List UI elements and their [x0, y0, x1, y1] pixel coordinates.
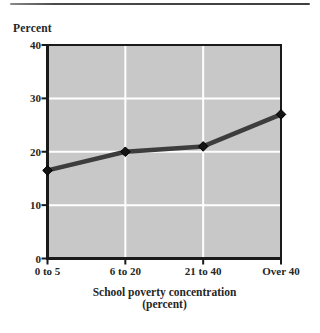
y-axis-tick-label: 20 — [8, 146, 41, 158]
chart-figure: Percent 010203040 0 to 56 to 2021 to 40O… — [0, 0, 320, 333]
line-chart-plot — [0, 0, 320, 333]
x-axis-category-label: Over 40 — [241, 265, 320, 277]
y-axis-tick-label: 0 — [8, 253, 41, 265]
y-axis-tick-label: 40 — [8, 39, 41, 51]
x-axis-title-line2: (percent) — [44, 299, 285, 311]
x-axis-category-label: 21 to 40 — [163, 265, 243, 277]
x-axis-category-label: 6 to 20 — [85, 265, 165, 277]
y-axis-tick-label: 10 — [8, 199, 41, 211]
x-axis-category-label: 0 to 5 — [8, 265, 88, 277]
y-axis-tick-label: 30 — [8, 92, 41, 104]
x-axis-title-line1: School poverty concentration — [44, 287, 285, 299]
